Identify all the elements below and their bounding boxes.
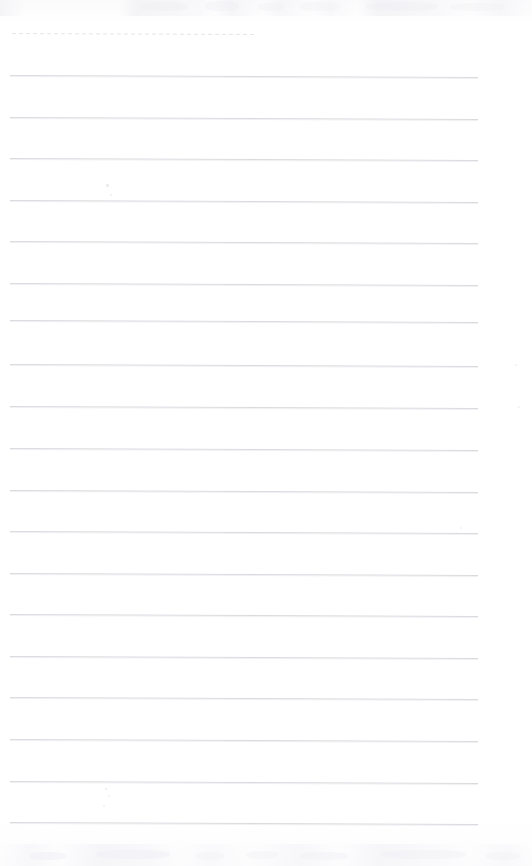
page-text-content (0, 0, 532, 866)
scanned-page (0, 0, 532, 866)
